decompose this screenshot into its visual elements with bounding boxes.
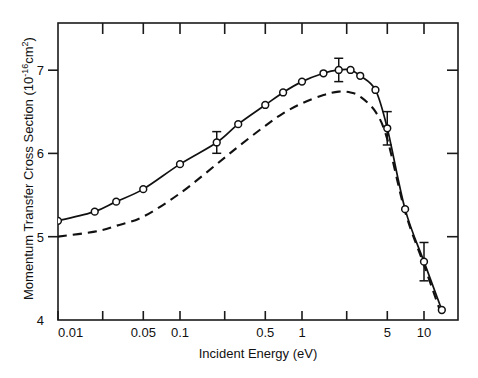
data-point-marker [140, 186, 147, 193]
data-point-marker [177, 161, 184, 168]
data-point-marker [299, 78, 306, 85]
data-point-marker [235, 121, 242, 128]
x-tick-label-0.5: 0.5 [256, 325, 274, 340]
figure-container: Momentum Transfer Cross Section (10-16cm… [0, 0, 478, 378]
data-point-marker [213, 139, 220, 146]
x-tick-label-10: 10 [417, 325, 431, 340]
x-tick-label-5: 5 [384, 325, 391, 340]
x-tick-label-0.1: 0.1 [171, 325, 189, 340]
measured-curve [58, 69, 442, 310]
chart-plot: Momentum Transfer Cross Section (10-16cm… [0, 0, 478, 378]
data-point-marker [347, 67, 354, 74]
y-tick-label-5: 5 [37, 230, 44, 245]
y-axis-right-ticks [447, 70, 458, 237]
data-point-marker [91, 208, 98, 215]
data-point-marker [280, 89, 287, 96]
x-axis-top-ticks [103, 23, 424, 34]
plot-frame [58, 23, 458, 320]
x-tick-label-0.05: 0.05 [131, 325, 156, 340]
y-tick-label-6: 6 [37, 146, 44, 161]
data-point-marker [438, 307, 445, 314]
data-point-marker [384, 125, 391, 132]
data-point-marker [55, 217, 62, 224]
data-point-marker [421, 258, 428, 265]
y-axis-title-unit: cm [21, 46, 36, 63]
data-point-markers [55, 67, 446, 314]
x-axis-title: Incident Energy (eV) [199, 346, 318, 361]
y-axis-tick-labels: 4 5 6 7 [37, 63, 44, 328]
y-axis-title-main: Momentum Transfer Cross Section (10 [21, 77, 36, 300]
y-tick-label-4: 4 [37, 313, 44, 328]
data-point-marker [402, 206, 409, 213]
y-axis-title-exponent: -16 [20, 64, 30, 77]
x-axis-tick-labels: 0.01 0.05 0.1 0.5 1 5 10 [58, 325, 431, 340]
data-point-marker [320, 70, 327, 77]
x-tick-label-1: 1 [298, 325, 305, 340]
y-axis-left-ticks [48, 70, 58, 237]
y-axis-title: Momentum Transfer Cross Section (10-16cm… [20, 37, 36, 300]
data-point-marker [262, 102, 269, 109]
data-point-marker [357, 72, 364, 79]
x-axis-major-ticks [58, 311, 424, 320]
y-axis-title-text: Momentum Transfer Cross Section (10-16cm… [20, 37, 36, 300]
data-point-marker [113, 198, 120, 205]
y-tick-label-7: 7 [37, 63, 44, 78]
data-point-marker [372, 87, 379, 94]
y-axis-title-close: ) [21, 37, 36, 41]
x-tick-label-0.01: 0.01 [58, 325, 83, 340]
data-point-marker [335, 67, 342, 74]
